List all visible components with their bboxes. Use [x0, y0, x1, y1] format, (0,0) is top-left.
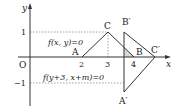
y-tick-minus1: −1: [14, 79, 26, 88]
point-a-label: A: [71, 47, 79, 57]
lower-equation: f(y+3, x+m)=0: [42, 73, 104, 82]
point-b-label: B: [136, 47, 143, 57]
point-c-prime-label: C′: [151, 45, 160, 55]
y-axis-label: y: [21, 3, 28, 13]
x-tick-2: 2: [79, 60, 84, 69]
y-axis-arrow-icon: [28, 3, 32, 9]
upper-equation: f(x, y)=0: [47, 38, 83, 47]
coordinate-diagram: y x O 2 3 4 1 −1 A C B B′ C′ A′ f(x, y)=…: [0, 0, 176, 109]
x-tick-3: 3: [105, 60, 110, 69]
point-b-prime-label: B′: [122, 17, 131, 27]
point-a-prime-label: A′: [118, 96, 128, 106]
x-axis-label: x: [166, 59, 171, 69]
y-tick-1: 1: [21, 28, 26, 37]
triangle-a-b-c-prime: [124, 32, 155, 92]
origin-label: O: [19, 60, 26, 70]
x-tick-4: 4: [131, 60, 136, 69]
point-c-label: C: [104, 21, 111, 31]
